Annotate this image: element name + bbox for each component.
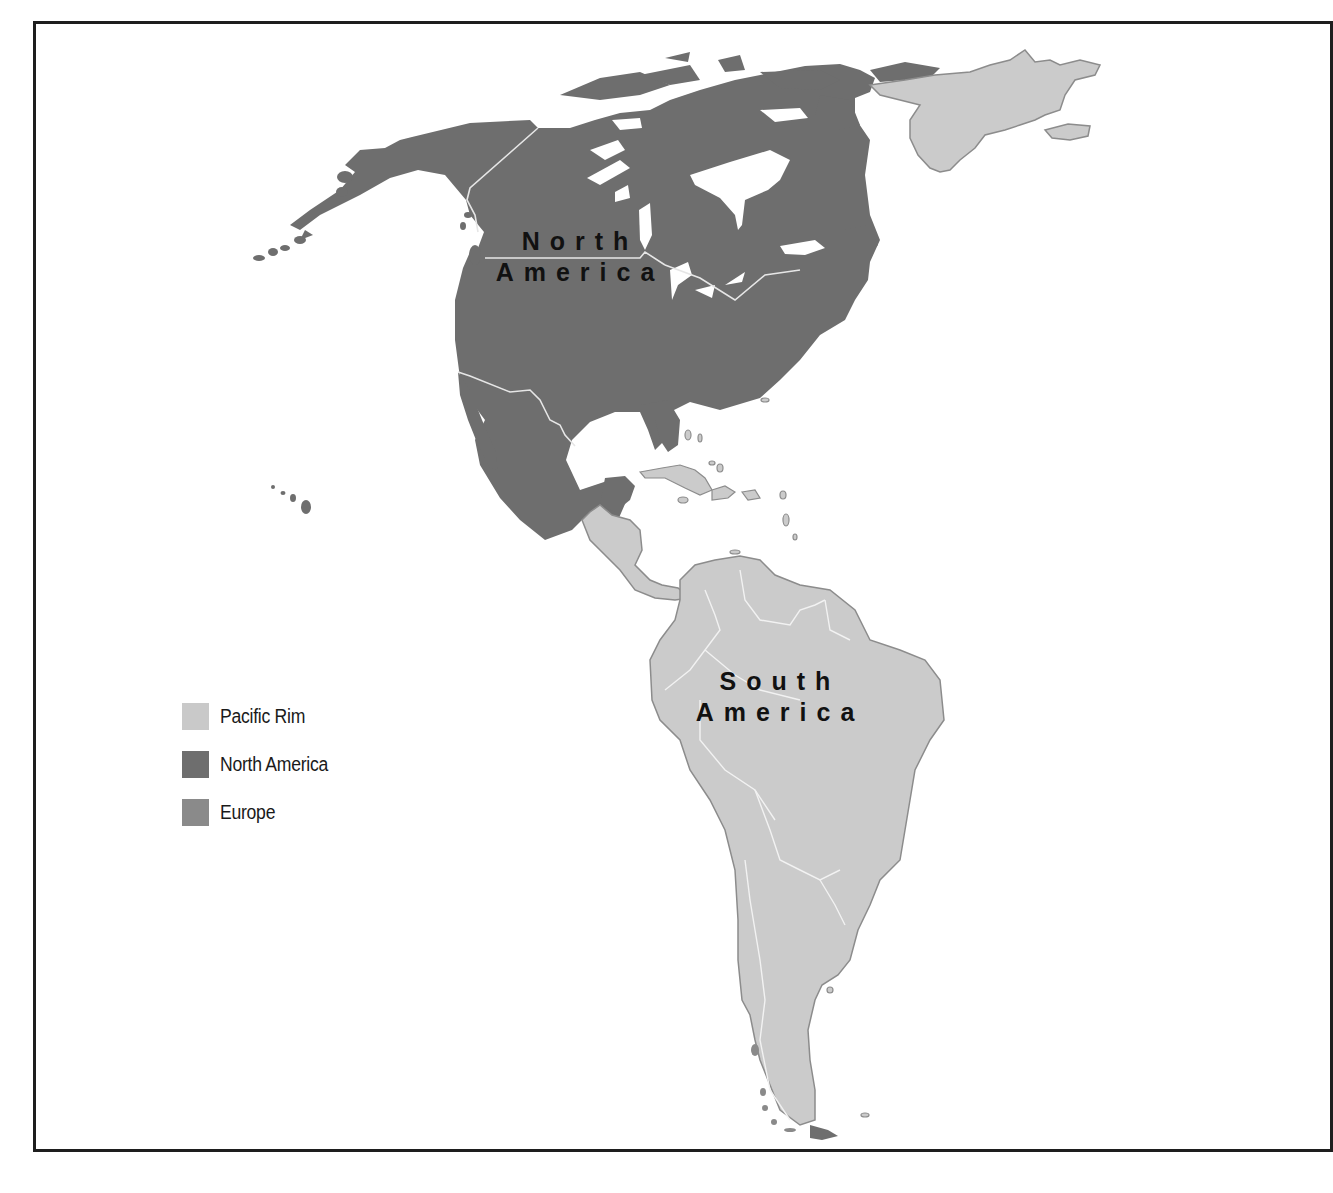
- legend-label: Europe: [220, 801, 275, 824]
- legend-item-europe: Europe: [182, 799, 343, 826]
- north-america-label: North America: [480, 226, 680, 288]
- south-america-label-line2: America: [685, 697, 875, 728]
- legend-label: Pacific Rim: [220, 705, 305, 728]
- south-america-label-line1: South: [685, 666, 875, 697]
- legend-item-north-america: North America: [182, 751, 343, 778]
- north-america-swatch-icon: [182, 751, 209, 778]
- legend-label: North America: [220, 753, 328, 776]
- south-america-label: South America: [685, 666, 875, 728]
- europe-swatch-icon: [182, 799, 209, 826]
- map-legend: Pacific Rim North America Europe: [182, 703, 343, 847]
- pacific-rim-swatch-icon: [182, 703, 209, 730]
- north-america-label-line1: North: [480, 226, 680, 257]
- south-america-region: [582, 505, 944, 1125]
- north-america-label-line2: America: [480, 257, 680, 288]
- legend-item-pacific-rim: Pacific Rim: [182, 703, 343, 730]
